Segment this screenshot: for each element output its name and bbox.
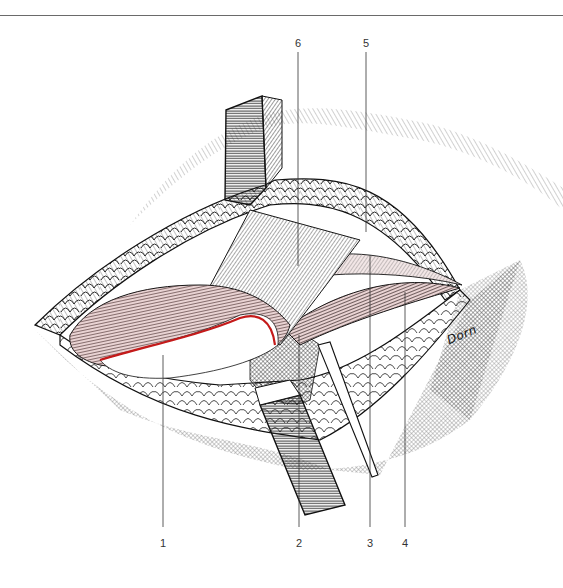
label-6: 6 xyxy=(295,38,301,49)
surgical-illustration xyxy=(0,0,563,588)
label-4: 4 xyxy=(402,538,408,549)
upper-retractor xyxy=(225,96,266,205)
label-2: 2 xyxy=(296,538,302,549)
label-1: 1 xyxy=(160,538,166,549)
label-3: 3 xyxy=(367,538,373,549)
label-5: 5 xyxy=(363,38,369,49)
